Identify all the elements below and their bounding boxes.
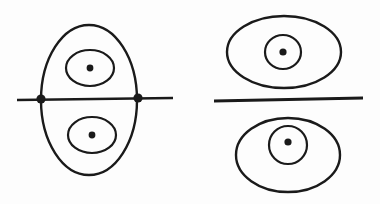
diagram-canvas: [0, 0, 380, 204]
left-upper-center-dot: [87, 65, 94, 72]
right-horizontal-line: [214, 98, 363, 101]
left-panel: [17, 25, 173, 175]
right-lower-outer-oval: [236, 118, 340, 192]
left-lower-center-dot: [89, 132, 96, 139]
right-upper-center-dot: [279, 48, 286, 55]
right-panel: [214, 16, 363, 192]
diagram-svg: [0, 0, 380, 204]
left-intersection-node: [36, 94, 45, 103]
right-intersection-node: [133, 93, 142, 102]
right-lower-center-dot: [284, 138, 291, 145]
